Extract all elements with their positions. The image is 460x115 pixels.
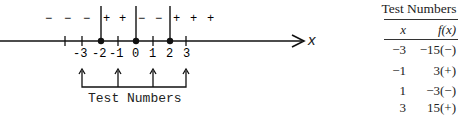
sign-mark: − [45, 12, 52, 26]
table-cell-x: −3 [378, 42, 406, 58]
tick-label: -2 [92, 47, 106, 61]
table-title: Test Numbers [378, 1, 460, 17]
table-top-rule [384, 19, 458, 20]
table-cell-x: 1 [378, 83, 406, 99]
table-cell-x: 3 [378, 100, 406, 115]
sign-mark: + [173, 12, 180, 26]
sign-mark: − [155, 12, 162, 26]
table-cell-fx: 15(+) [408, 100, 456, 115]
tick-label: 2 [166, 47, 173, 61]
sign-chart-number-line: − − − + + − − + + + -3 -2 -1 0 1 2 3 x T… [0, 0, 350, 115]
table-cell-x: −1 [378, 63, 406, 79]
tick-label: 3 [183, 47, 190, 61]
test-numbers-label: Test Numbers [88, 91, 182, 106]
sign-mark: − [138, 12, 145, 26]
axis-label-x: x [308, 31, 316, 48]
table-cell-fx: −3(−) [408, 83, 456, 99]
sign-mark: + [190, 12, 197, 26]
table-header-rule [384, 39, 458, 40]
sign-mark: − [83, 12, 90, 26]
sign-mark: + [119, 12, 126, 26]
tick-label: 0 [132, 47, 139, 61]
header-x: x [378, 22, 406, 38]
tick-label: -1 [109, 47, 123, 61]
tick-label: 1 [149, 47, 156, 61]
sign-mark: − [64, 12, 71, 26]
table-cell-fx: 3(+) [408, 63, 456, 79]
sign-mark: + [207, 12, 214, 26]
header-fx: f(x) [408, 22, 456, 38]
sign-mark: + [103, 12, 110, 26]
tick-label: -3 [73, 47, 87, 61]
table-cell-fx: −15(−) [408, 42, 456, 58]
